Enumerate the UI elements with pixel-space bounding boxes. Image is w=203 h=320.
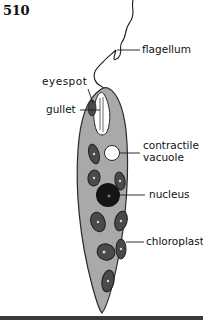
label-flagellum: flagellum — [142, 44, 191, 55]
label-chloroplast: chloroplast — [146, 236, 203, 247]
label-vacuole: vacuole — [143, 152, 184, 163]
label-eyespot: eyespot — [42, 76, 87, 87]
bottom-rule — [0, 316, 203, 320]
label-nucleus: nucleus — [149, 189, 190, 200]
label-gullet: gullet — [46, 104, 76, 115]
contractile-vacuole — [105, 146, 120, 161]
label-contractile: contractile — [143, 140, 199, 151]
eyespot — [88, 100, 96, 116]
flagellum-strand — [94, 0, 133, 92]
